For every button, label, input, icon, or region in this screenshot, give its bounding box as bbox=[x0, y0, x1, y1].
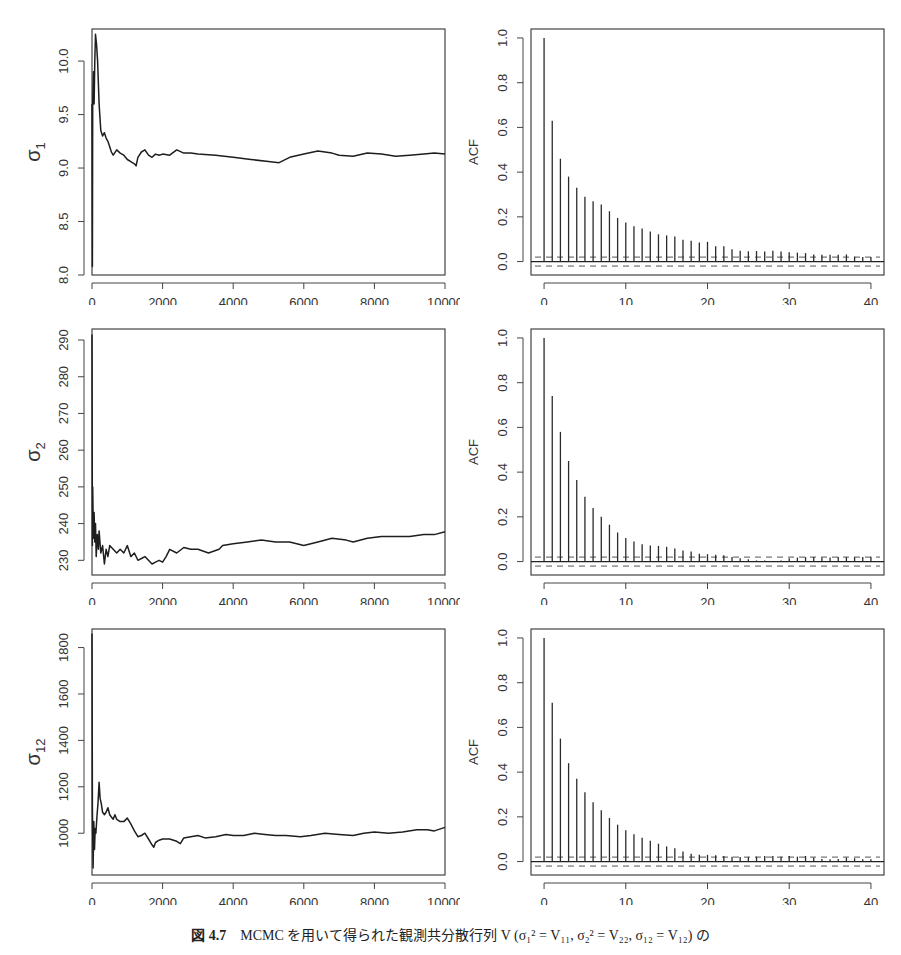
y-tick-label: 0.8 bbox=[495, 674, 510, 692]
y-tick-label: 1600 bbox=[56, 680, 71, 709]
y-tick-label: 270 bbox=[56, 403, 71, 425]
y-tick-label: 0.8 bbox=[495, 74, 510, 92]
y-tick-label: 0.6 bbox=[495, 718, 510, 736]
y-axis-label: σ1 bbox=[22, 142, 48, 162]
y-tick-label: 1400 bbox=[56, 726, 71, 755]
y-tick-label: 0.0 bbox=[495, 553, 510, 571]
trace-plot-svg: 0200040006000800010000230240250260270280… bbox=[0, 300, 460, 605]
plot-frame bbox=[531, 29, 884, 275]
y-tick-label: 9.5 bbox=[56, 106, 71, 124]
y-tick-label: 0.6 bbox=[495, 118, 510, 136]
acf-plot-sigma12: 0102030400.00.20.40.60.81.0ACF bbox=[460, 600, 901, 905]
y-tick-label: 1000 bbox=[56, 819, 71, 848]
y-tick-label: 260 bbox=[56, 439, 71, 461]
y-axis-label: σ12 bbox=[22, 739, 48, 766]
trace-plot-sigma12: 0200040006000800010000100012001400160018… bbox=[0, 600, 460, 905]
trace-line bbox=[92, 634, 445, 868]
y-tick-label: 230 bbox=[56, 549, 71, 571]
plot-frame bbox=[531, 329, 884, 575]
x-tick-label: 0 bbox=[540, 895, 547, 905]
plot-frame bbox=[92, 329, 445, 575]
y-tick-label: 0.6 bbox=[495, 418, 510, 436]
plot-frame bbox=[92, 629, 445, 875]
y-tick-label: 1.0 bbox=[495, 329, 510, 347]
y-tick-label: 1.0 bbox=[495, 629, 510, 647]
y-tick-label: 10.0 bbox=[56, 48, 71, 73]
x-tick-label: 10 bbox=[619, 895, 633, 905]
y-tick-label: 1.0 bbox=[495, 29, 510, 47]
acf-plot-sigma1: 0102030400.00.20.40.60.81.0ACF bbox=[460, 0, 901, 305]
y-tick-label: 8.0 bbox=[56, 266, 71, 284]
y-tick-label: 0.2 bbox=[495, 508, 510, 526]
trace-plot-sigma1: 02000400060008000100008.08.59.09.510.0σ1 bbox=[0, 0, 460, 305]
x-tick-label: 4000 bbox=[219, 895, 248, 905]
y-tick-label: 1200 bbox=[56, 772, 71, 801]
y-tick-label: 0.4 bbox=[495, 763, 510, 781]
y-tick-label: 0.2 bbox=[495, 208, 510, 226]
trace-plot-svg: 02000400060008000100008.08.59.09.510.0σ1 bbox=[0, 0, 460, 305]
y-tick-label: 9.0 bbox=[56, 159, 71, 177]
y-tick-label: 1800 bbox=[56, 633, 71, 662]
y-axis-label: ACF bbox=[466, 739, 481, 765]
y-tick-label: 290 bbox=[56, 329, 71, 351]
figure-caption-text: MCMC を用いて得られた観測共分散行列 V (σ₁² = V₁₁, σ₂² =… bbox=[240, 928, 710, 943]
figure-caption: 図 4.7 MCMC を用いて得られた観測共分散行列 V (σ₁² = V₁₁,… bbox=[0, 924, 901, 944]
y-tick-label: 0.2 bbox=[495, 808, 510, 826]
y-tick-label: 0.0 bbox=[495, 853, 510, 871]
y-axis-label: σ2 bbox=[22, 442, 48, 462]
acf-plot-svg: 0102030400.00.20.40.60.81.0ACF bbox=[460, 0, 901, 305]
plot-frame bbox=[92, 29, 445, 275]
x-tick-label: 6000 bbox=[289, 895, 318, 905]
x-tick-label: 10000 bbox=[427, 895, 460, 905]
y-tick-label: 0.4 bbox=[495, 463, 510, 481]
y-tick-label: 240 bbox=[56, 513, 71, 535]
y-tick-label: 8.5 bbox=[56, 212, 71, 230]
acf-plot-svg: 0102030400.00.20.40.60.81.0ACF bbox=[460, 300, 901, 605]
x-tick-label: 20 bbox=[700, 895, 714, 905]
x-tick-label: 8000 bbox=[360, 895, 389, 905]
acf-plot-sigma2: 0102030400.00.20.40.60.81.0ACF bbox=[460, 300, 901, 605]
acf-plot-svg: 0102030400.00.20.40.60.81.0ACF bbox=[460, 600, 901, 905]
x-tick-label: 0 bbox=[88, 895, 95, 905]
y-axis-label: ACF bbox=[466, 439, 481, 465]
trace-plot-sigma2: 0200040006000800010000230240250260270280… bbox=[0, 300, 460, 605]
x-tick-label: 2000 bbox=[148, 895, 177, 905]
x-tick-label: 40 bbox=[864, 895, 878, 905]
y-tick-label: 250 bbox=[56, 476, 71, 498]
y-tick-label: 0.0 bbox=[495, 253, 510, 271]
trace-line bbox=[92, 34, 445, 266]
y-tick-label: 0.4 bbox=[495, 163, 510, 181]
figure-label: 図 4.7 bbox=[191, 928, 226, 943]
y-axis-label: ACF bbox=[466, 139, 481, 165]
trace-plot-svg: 0200040006000800010000100012001400160018… bbox=[0, 600, 460, 905]
y-tick-label: 0.8 bbox=[495, 374, 510, 392]
plot-frame bbox=[531, 629, 884, 875]
y-tick-label: 280 bbox=[56, 366, 71, 388]
trace-line bbox=[92, 335, 445, 565]
x-tick-label: 30 bbox=[782, 895, 796, 905]
